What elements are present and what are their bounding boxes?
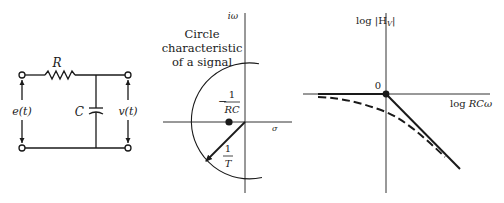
figure-canvas: R C e(t) v(t) iω σ Circle characteristic… xyxy=(0,0,504,203)
asymptote-slope xyxy=(386,94,460,169)
annotation-line-1: Circle xyxy=(185,27,220,41)
terminal-out-bottom xyxy=(125,145,131,151)
pole-label-denominator: RC xyxy=(223,104,240,115)
imag-axis-label: iω xyxy=(228,11,239,21)
terminal-in-top xyxy=(19,72,25,78)
annotation-line-3: of a signal xyxy=(172,55,233,69)
radius-label-numerator: 1 xyxy=(225,143,231,154)
real-axis-label: σ xyxy=(272,124,278,133)
capacitor-label: C xyxy=(75,105,84,119)
magnitude-curve-dashed xyxy=(318,97,445,157)
bode-y-axis-label: log |HV| xyxy=(356,15,395,28)
bode-origin-label: 0 xyxy=(375,80,381,91)
terminal-in-bottom xyxy=(19,145,25,151)
radius-arrow xyxy=(206,122,245,161)
input-voltage-label: e(t) xyxy=(12,105,32,118)
terminal-out-top xyxy=(125,72,131,78)
corner-point xyxy=(383,91,390,98)
annotation-line-2: characteristic xyxy=(162,41,243,55)
resistor-icon xyxy=(45,71,75,79)
radius-label-denominator: T xyxy=(225,158,233,169)
output-voltage-label: v(t) xyxy=(118,105,137,118)
pole-label-numerator: 1 xyxy=(229,89,235,100)
bode-x-axis-label: log RCω xyxy=(450,98,492,109)
resistor-label: R xyxy=(51,56,61,70)
pole-marker xyxy=(225,118,232,125)
